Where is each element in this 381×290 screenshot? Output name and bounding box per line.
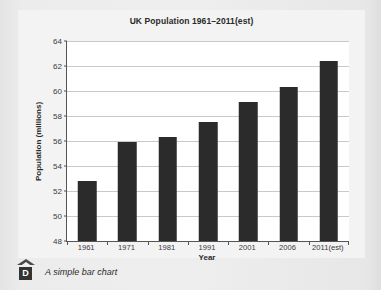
x-axis-title: Year bbox=[66, 253, 348, 262]
bar[interactable] bbox=[199, 122, 218, 241]
page-background: UK Population 1961–2011(est) Population … bbox=[0, 0, 381, 290]
bar-slot bbox=[309, 41, 349, 241]
bar[interactable] bbox=[320, 61, 339, 241]
chart-title: UK Population 1961–2011(est) bbox=[18, 16, 365, 26]
bar-slot bbox=[188, 41, 228, 241]
y-tick-label: 48 bbox=[53, 237, 62, 246]
x-axis-tick-labels: 1961197119811991200120062011(est) bbox=[66, 243, 348, 252]
bars-container bbox=[67, 41, 349, 241]
x-tick-label: 1961 bbox=[66, 243, 106, 252]
bar[interactable] bbox=[78, 181, 97, 241]
bar-slot bbox=[67, 41, 107, 241]
y-axis-title: Population (millions) bbox=[32, 41, 46, 241]
y-tick-label: 54 bbox=[53, 162, 62, 171]
x-tick-label: 2011(est) bbox=[308, 243, 348, 252]
badge-letter: D bbox=[19, 267, 32, 280]
bar-slot bbox=[228, 41, 268, 241]
y-tick-label: 58 bbox=[53, 112, 62, 121]
plot-area: 485052545658606264 bbox=[66, 41, 349, 242]
y-tick-label: 64 bbox=[53, 37, 62, 46]
x-tick-mark bbox=[348, 241, 349, 245]
bar[interactable] bbox=[118, 142, 137, 241]
caption-marker: D bbox=[16, 262, 36, 282]
y-axis-title-label: Population (millions) bbox=[35, 101, 44, 180]
x-tick-label: 2006 bbox=[267, 243, 307, 252]
y-tick-label: 60 bbox=[53, 87, 62, 96]
bar[interactable] bbox=[239, 102, 258, 241]
y-tick-label: 62 bbox=[53, 62, 62, 71]
y-tick-label: 52 bbox=[53, 187, 62, 196]
y-tick-label: 50 bbox=[53, 212, 62, 221]
bar[interactable] bbox=[158, 137, 177, 241]
bar[interactable] bbox=[279, 87, 298, 241]
figure-caption-text: A simple bar chart bbox=[45, 267, 117, 277]
bar-slot bbox=[268, 41, 308, 241]
bar-slot bbox=[107, 41, 147, 241]
x-tick-label: 1991 bbox=[187, 243, 227, 252]
bar-slot bbox=[148, 41, 188, 241]
x-tick-label: 1981 bbox=[147, 243, 187, 252]
y-tick-label: 56 bbox=[53, 137, 62, 146]
figure-caption-row: D A simple bar chart bbox=[16, 262, 117, 282]
x-tick-label: 1971 bbox=[106, 243, 146, 252]
x-tick-label: 2001 bbox=[227, 243, 267, 252]
figure-panel: UK Population 1961–2011(est) Population … bbox=[18, 10, 365, 258]
